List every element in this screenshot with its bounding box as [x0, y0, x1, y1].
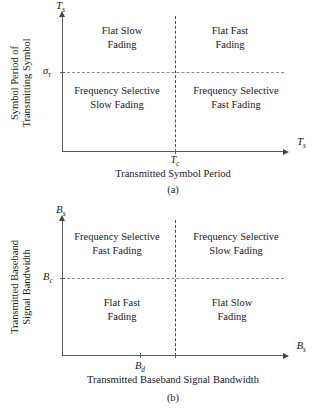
quadrant-bottom-left-a-line2: Slow Fading — [59, 98, 175, 112]
horizontal-threshold-line-b — [62, 278, 284, 279]
quadrant-bottom-left-b-line2: Fading — [72, 310, 172, 324]
quadrant-top-left-b-line1: Frequency Selective — [59, 230, 175, 244]
quadrant-top-left-a-line2: Fading — [72, 38, 172, 52]
quadrant-bottom-right-a: Frequency Selective Fast Fading — [178, 84, 294, 111]
figure-fading-vs-symbol-period: Symbol Period of Transmitting Symbol Ts … — [0, 0, 314, 205]
quadrant-bottom-left-b-line1: Flat Fast — [72, 296, 172, 310]
quadrant-top-left-b: Frequency Selective Fast Fading — [59, 230, 175, 257]
quadrant-top-right-b: Frequency Selective Slow Fading — [178, 230, 294, 257]
quadrant-top-right-a: Flat Fast Fading — [180, 24, 280, 51]
quadrant-top-right-a-line1: Flat Fast — [180, 24, 280, 38]
quadrant-top-right-b-line1: Frequency Selective — [178, 230, 294, 244]
x-axis-line-b — [62, 355, 284, 356]
x-axis-arrow-icon-a — [283, 149, 289, 155]
quadrant-bottom-right-b-line1: Flat Slow — [182, 296, 282, 310]
x-axis-title-b: Transmitted Baseband Signal Bandwidth — [40, 374, 306, 385]
plot-area-a: Ts Ts στ Tc Flat Slow Fading Flat Fast F… — [62, 16, 284, 152]
horizontal-threshold-line-a — [62, 72, 284, 73]
x-axis-line-a — [62, 151, 284, 152]
quadrant-bottom-right-a-line1: Frequency Selective — [178, 84, 294, 98]
quadrant-top-right-b-line2: Slow Fading — [178, 244, 294, 258]
y-axis-symbol-a: Ts — [56, 0, 65, 14]
x-tick-label-b: Bd — [135, 360, 145, 374]
quadrant-bottom-right-a-line2: Fast Fading — [178, 98, 294, 112]
figure-caption-a: (a) — [62, 184, 284, 195]
x-tick-mark-b-threshold — [175, 353, 176, 358]
quadrant-bottom-left-a-line1: Frequency Selective — [59, 84, 175, 98]
x-tick-label-a: Tc — [170, 154, 179, 168]
y-axis-title-a-line1: Symbol Period of — [9, 46, 21, 120]
vertical-threshold-line-a — [175, 16, 176, 152]
y-axis-title-b-line2: Signal Bandwidth — [21, 249, 33, 325]
y-axis-title-a-line2: Transmitting Symbol — [21, 38, 33, 127]
quadrant-top-right-a-line2: Fading — [180, 38, 280, 52]
y-tick-label-b: Bc — [43, 271, 53, 285]
quadrant-top-left-b-line2: Fast Fading — [59, 244, 175, 258]
quadrant-bottom-right-b: Flat Slow Fading — [182, 296, 282, 323]
x-axis-symbol-a: Ts — [297, 135, 306, 150]
y-axis-symbol-b: Bs — [56, 203, 66, 218]
y-tick-mark-a — [60, 72, 65, 73]
x-tick-mark-b — [140, 353, 141, 358]
quadrant-bottom-right-b-line2: Fading — [182, 310, 282, 324]
quadrant-top-left-a: Flat Slow Fading — [72, 24, 172, 51]
quadrant-bottom-left-b: Flat Fast Fading — [72, 296, 172, 323]
x-axis-symbol-b: Bs — [296, 339, 306, 354]
y-tick-label-a: στ — [43, 65, 51, 79]
y-axis-title-b-line1: Transmitted Baseband — [9, 240, 21, 334]
y-axis-title-a: Symbol Period of Transmitting Symbol — [4, 8, 38, 158]
y-tick-mark-b — [60, 278, 65, 279]
plot-area-b: Bs Bs Bc Bd Frequency Selective Fast Fad… — [62, 220, 284, 356]
quadrant-top-left-a-line1: Flat Slow — [72, 24, 172, 38]
x-axis-arrow-icon-b — [283, 353, 289, 359]
y-axis-title-b: Transmitted Baseband Signal Bandwidth — [4, 212, 38, 362]
x-axis-title-a: Transmitted Symbol Period — [62, 168, 284, 179]
vertical-threshold-line-b — [175, 220, 176, 356]
figure-caption-b: (b) — [62, 392, 284, 403]
figure-fading-vs-signal-bandwidth: Transmitted Baseband Signal Bandwidth Bs… — [0, 204, 314, 409]
quadrant-bottom-left-a: Frequency Selective Slow Fading — [59, 84, 175, 111]
